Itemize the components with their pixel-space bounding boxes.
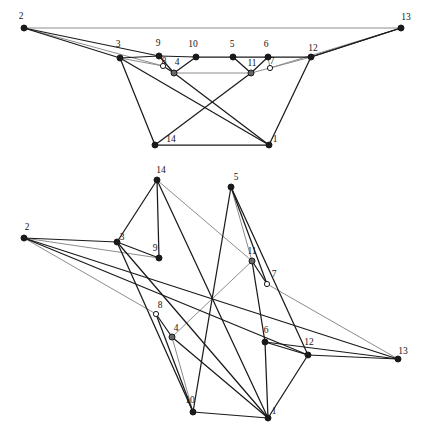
graph-node-label-13: 13 bbox=[398, 346, 408, 356]
lower-drawing: 1452391178461213101 bbox=[21, 165, 408, 421]
graph-edge bbox=[231, 187, 267, 284]
lower-drawing-nodes: 1452391178461213101 bbox=[21, 165, 408, 421]
graph-node-14[interactable] bbox=[154, 177, 160, 183]
upper-drawing-nodes: 2133910561284117141 bbox=[19, 11, 411, 148]
graph-node-label-9: 9 bbox=[156, 38, 161, 48]
graph-node-label-7: 7 bbox=[270, 56, 275, 66]
graph-edge bbox=[265, 342, 308, 355]
graph-node-4[interactable] bbox=[169, 334, 175, 340]
graph-node-label-4: 4 bbox=[175, 57, 180, 67]
graph-edge bbox=[269, 57, 311, 145]
graph-node-label-12: 12 bbox=[308, 43, 318, 53]
graph-node-label-14: 14 bbox=[166, 134, 176, 144]
graph-node-label-13: 13 bbox=[401, 12, 411, 22]
upper-drawing: 2133910561284117141 bbox=[19, 11, 411, 148]
graph-node-label-8: 8 bbox=[158, 300, 163, 310]
graph-node-label-3: 3 bbox=[116, 39, 121, 49]
graph-edge bbox=[265, 342, 268, 418]
graph-node-label-2: 2 bbox=[19, 11, 24, 21]
graph-node-10[interactable] bbox=[190, 409, 196, 415]
graph-node-label-9: 9 bbox=[153, 243, 158, 253]
graph-node-2[interactable] bbox=[21, 235, 27, 241]
graph-node-1[interactable] bbox=[266, 142, 272, 148]
graph-edge bbox=[193, 187, 231, 412]
graph-node-9[interactable] bbox=[156, 255, 162, 261]
graph-node-14[interactable] bbox=[152, 142, 158, 148]
graph-node-label-10: 10 bbox=[185, 395, 195, 405]
graph-node-4[interactable] bbox=[171, 70, 177, 76]
graph-node-11[interactable] bbox=[248, 70, 254, 76]
lower-drawing-edges bbox=[24, 180, 398, 418]
graph-node-label-1: 1 bbox=[272, 406, 277, 416]
graph-node-label-14: 14 bbox=[156, 165, 166, 175]
graph-node-label-5: 5 bbox=[234, 172, 239, 182]
graph-edge bbox=[311, 28, 401, 57]
graph-edge bbox=[231, 187, 308, 355]
graph-node-5[interactable] bbox=[228, 184, 234, 190]
graph-node-7[interactable] bbox=[267, 65, 272, 70]
graph-edge bbox=[117, 242, 268, 418]
graph-node-13[interactable] bbox=[395, 356, 401, 362]
graph-node-label-11: 11 bbox=[247, 58, 256, 68]
graph-edge bbox=[267, 284, 398, 359]
graph-edge bbox=[120, 58, 269, 145]
graph-node-label-11: 11 bbox=[247, 246, 256, 256]
graph-edge bbox=[157, 180, 252, 261]
graph-node-1[interactable] bbox=[265, 415, 271, 421]
graph-edge bbox=[24, 28, 163, 66]
graph-edge bbox=[24, 238, 308, 355]
graph-figure: 21339105612841171411452391178461213101 bbox=[0, 0, 432, 441]
graph-edge bbox=[24, 238, 398, 359]
graph-node-label-6: 6 bbox=[264, 39, 269, 49]
graph-node-2[interactable] bbox=[21, 25, 27, 31]
graph-node-13[interactable] bbox=[398, 25, 404, 31]
graph-node-label-1: 1 bbox=[273, 134, 278, 144]
graph-node-7[interactable] bbox=[264, 281, 269, 286]
graph-node-label-12: 12 bbox=[304, 337, 314, 347]
graph-edge bbox=[117, 242, 193, 412]
graph-node-label-3: 3 bbox=[120, 232, 125, 242]
graph-canvas: 21339105612841171411452391178461213101 bbox=[0, 0, 432, 441]
graph-node-5[interactable] bbox=[230, 54, 236, 60]
graph-node-11[interactable] bbox=[249, 258, 255, 264]
graph-node-10[interactable] bbox=[193, 54, 199, 60]
graph-node-3[interactable] bbox=[117, 55, 123, 61]
graph-node-label-4: 4 bbox=[174, 323, 179, 333]
graph-node-label-6: 6 bbox=[264, 325, 269, 335]
graph-edge bbox=[174, 73, 269, 145]
graph-node-12[interactable] bbox=[308, 54, 314, 60]
graph-node-8[interactable] bbox=[153, 311, 158, 316]
graph-edge bbox=[193, 412, 268, 418]
graph-node-6[interactable] bbox=[262, 339, 268, 345]
graph-node-label-10: 10 bbox=[188, 39, 198, 49]
graph-edge bbox=[24, 28, 120, 58]
graph-edge bbox=[24, 28, 159, 56]
upper-drawing-edges bbox=[24, 28, 401, 145]
graph-node-label-5: 5 bbox=[230, 39, 235, 49]
graph-node-label-8: 8 bbox=[162, 56, 167, 66]
graph-edge bbox=[120, 58, 155, 145]
graph-node-12[interactable] bbox=[305, 352, 311, 358]
graph-node-label-2: 2 bbox=[25, 222, 30, 232]
graph-node-label-7: 7 bbox=[272, 269, 277, 279]
graph-edge bbox=[172, 337, 268, 418]
